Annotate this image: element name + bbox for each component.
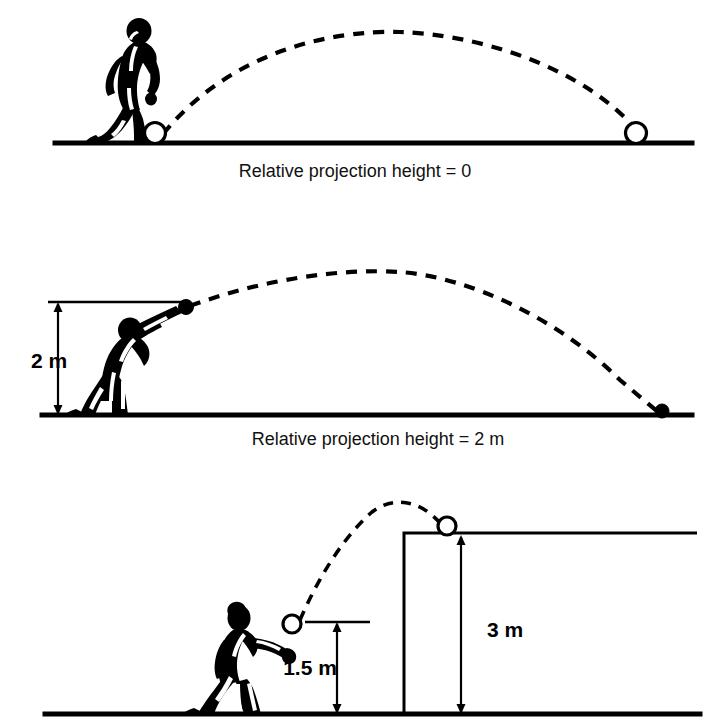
panel2-dimension-arrow-up (54, 302, 63, 312)
panel1-ball-at-release (145, 123, 166, 144)
panel1-trajectory-path (163, 32, 634, 134)
panel3-release-height-label: 1.5 m (283, 656, 337, 679)
panel3-target-height-label: 3 m (487, 618, 523, 641)
panel1-ball-at-landing (626, 123, 647, 144)
panel2-ball-at-landing (655, 404, 669, 418)
panel3-release-arrow-up (333, 622, 342, 632)
panel2-caption: Relative projection height = 2 m (252, 429, 505, 449)
panel3-target-platform (404, 533, 697, 714)
panel3-ball-at-release (283, 615, 301, 633)
panel3-ball-at-landing (438, 517, 456, 535)
panel2-height-label: 2 m (31, 349, 67, 372)
panel-1: Relative projection height = 0 (55, 18, 692, 181)
panel3-target-arrow-up (457, 535, 466, 545)
projectile-figure: Relative projection height = 0 2 m (0, 0, 711, 722)
panel2-ball-at-release (179, 300, 194, 315)
figure-canvas: Relative projection height = 0 2 m (0, 0, 711, 722)
panel1-caption: Relative projection height = 0 (239, 161, 472, 181)
panel-2: 2 m (31, 271, 692, 449)
panel3-trajectory-path (300, 502, 445, 620)
panel-3: 1.5 m 3 m (45, 502, 700, 714)
panel2-trajectory-path (190, 271, 658, 412)
